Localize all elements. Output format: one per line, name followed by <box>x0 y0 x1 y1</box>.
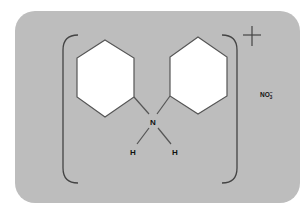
bond-n-h-left <box>137 128 149 144</box>
bond-ring-left-n <box>134 97 149 114</box>
counter-ion-base: NO <box>260 91 270 98</box>
atom-nitrogen: N <box>150 118 156 127</box>
atom-hydrogen-right: H <box>172 148 178 157</box>
counter-ion-nitrate: NO3− <box>260 89 273 100</box>
counter-ion-superscript: − <box>270 89 273 95</box>
left-bracket <box>63 35 78 183</box>
counter-ion-subscript: 3 <box>270 95 273 100</box>
atom-hydrogen-left: H <box>130 148 136 157</box>
bond-ring-right-n <box>157 96 170 114</box>
phenyl-ring-left <box>77 40 134 117</box>
bond-n-h-right <box>158 128 171 144</box>
molecule-diagram: N H H NO3− <box>0 0 307 213</box>
positive-charge-icon <box>243 26 261 46</box>
phenyl-ring-right <box>170 37 227 114</box>
